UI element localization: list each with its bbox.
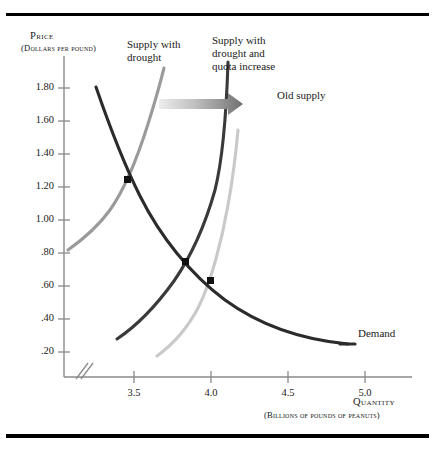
y-tick-label: 1.40 xyxy=(20,147,54,159)
label-demand: Demand xyxy=(358,327,395,340)
y-tick-label: 1.60 xyxy=(20,114,54,126)
y-axis-title: Price xyxy=(30,30,54,42)
x-tick-label: 4.0 xyxy=(191,387,231,399)
x-tick-label: 3.5 xyxy=(114,387,154,399)
y-tick-label: .80 xyxy=(20,246,54,258)
label-supply-with-drought-and-quota: Supply with drought and quota increase xyxy=(212,34,275,73)
x-tick-label: 4.5 xyxy=(268,387,308,399)
label-old-supply: Old supply xyxy=(277,89,326,102)
x-tick-label: 5.0 xyxy=(345,387,385,399)
curve-demand xyxy=(96,87,348,344)
curve-supply-with-drought xyxy=(68,68,164,250)
x-axis-subtitle: (Billions of pounds of peanuts) xyxy=(264,411,380,421)
supply-shift-arrow-icon xyxy=(159,93,243,115)
label-supply-with-drought: Supply with drought xyxy=(127,38,180,64)
y-tick-label: 1.20 xyxy=(20,180,54,192)
figure-container: Price (Dollars per pound) Quantity (Bill… xyxy=(0,0,435,451)
y-tick-label: .40 xyxy=(20,312,54,324)
y-tick-label: .60 xyxy=(20,279,54,291)
y-tick-label: .20 xyxy=(20,345,54,357)
y-tick-label: 1.80 xyxy=(20,81,54,93)
y-tick-label: 1.00 xyxy=(20,213,54,225)
y-axis-subtitle: (Dollars per pound) xyxy=(21,44,96,54)
chart-plot-area: Price (Dollars per pound) Quantity (Bill… xyxy=(0,0,435,451)
